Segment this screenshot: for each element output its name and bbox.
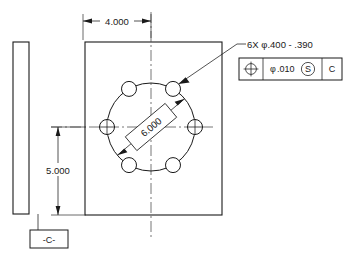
fcf-tolerance-value: .010: [277, 64, 295, 74]
arrowhead-bottom: [56, 206, 61, 215]
arrowhead-top: [56, 127, 61, 136]
side-view-outline: [13, 42, 29, 214]
hole-note-leader: [179, 44, 247, 84]
side-edge-view: [13, 42, 29, 214]
hole-300deg: [166, 158, 181, 173]
hole-120deg: [122, 81, 137, 96]
hole-240deg: [122, 158, 137, 173]
dimension-width-4000: 4.000: [83, 14, 151, 40]
arrowhead-upper-right: [175, 99, 185, 106]
fcf-datum-reference: C: [329, 64, 336, 74]
dimension-value-height: 5.000: [46, 165, 70, 176]
engineering-drawing-canvas: -C-: [0, 0, 353, 259]
arrowhead-left: [83, 19, 92, 24]
datum-feature-symbol-c: -C-: [30, 230, 68, 248]
feature-control-frame: φ .010 S C: [239, 58, 342, 80]
datum-label: -C-: [43, 235, 56, 245]
hole-60deg: [166, 81, 181, 96]
leader-line: [179, 44, 238, 84]
fcf-tolerance-symbol: φ: [270, 64, 276, 74]
arrowhead-lower-left: [117, 149, 127, 156]
material-modifier-letter: S: [305, 64, 311, 74]
leader-arrowhead: [179, 77, 190, 84]
arrowhead-right: [142, 19, 151, 24]
dimension-value-width: 4.000: [105, 16, 129, 27]
dimension-height-5000: 5.000: [40, 127, 86, 215]
hole-note-text: 6X φ.400 - .390: [247, 39, 313, 50]
